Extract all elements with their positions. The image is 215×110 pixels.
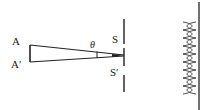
- double-slit-diagram: A A′ θ S S′: [0, 0, 215, 110]
- ray-from-a: [30, 45, 124, 55]
- label-s: S: [112, 33, 118, 45]
- label-s-prime: S′: [110, 66, 119, 78]
- label-a: A: [12, 35, 20, 47]
- ray-from-a-prime: [30, 56, 124, 62]
- label-a-prime: A′: [11, 58, 21, 70]
- label-theta: θ: [90, 39, 95, 50]
